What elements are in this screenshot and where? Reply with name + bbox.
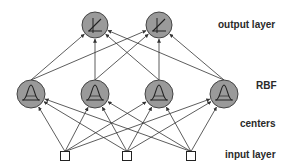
input-node bbox=[123, 152, 132, 161]
output-neuron bbox=[146, 12, 172, 38]
rbf-neuron bbox=[81, 80, 109, 108]
rbf-to-output-edges bbox=[31, 30, 224, 80]
input-node bbox=[61, 152, 70, 161]
connection-arrow bbox=[127, 107, 152, 151]
connection-arrow bbox=[191, 107, 217, 151]
input-layer bbox=[61, 152, 196, 161]
connection-arrow bbox=[31, 34, 84, 80]
connection-arrow bbox=[166, 107, 191, 151]
connection-arrow bbox=[39, 107, 65, 152]
output-neuron bbox=[82, 12, 108, 38]
centers-label: centers bbox=[240, 118, 276, 129]
rbf-layer-label: RBF bbox=[256, 80, 277, 91]
connection-arrow bbox=[108, 30, 224, 80]
output-layer bbox=[82, 12, 172, 38]
rbf-layer bbox=[17, 80, 238, 108]
connection-arrow bbox=[170, 34, 224, 80]
connection-arrow bbox=[45, 99, 191, 151]
input-to-rbf-edges bbox=[39, 99, 217, 151]
rbf-neuron bbox=[210, 80, 238, 108]
connection-arrow bbox=[108, 102, 191, 152]
rbf-neuron bbox=[145, 80, 173, 108]
connection-arrow bbox=[102, 107, 127, 151]
input-node bbox=[187, 152, 196, 161]
connection-arrow bbox=[31, 31, 146, 80]
rbf-neuron bbox=[17, 80, 45, 108]
input-layer-label: input layer bbox=[225, 149, 276, 160]
output-layer-label: output layer bbox=[218, 19, 275, 30]
